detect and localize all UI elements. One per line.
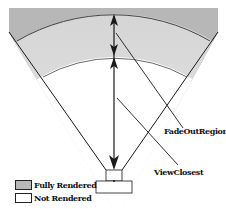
view-frustum-diagram bbox=[0, 0, 226, 209]
legend-label: Not Rendered bbox=[34, 193, 91, 203]
camera-center-dot bbox=[113, 180, 115, 182]
legend-fully-rendered: Fully Rendered bbox=[15, 180, 96, 190]
legend-swatch-white bbox=[15, 193, 32, 203]
camera-body bbox=[96, 181, 132, 193]
legend-not-rendered: Not Rendered bbox=[15, 193, 91, 203]
camera-lens bbox=[106, 170, 122, 181]
legend-label: Fully Rendered bbox=[34, 180, 96, 190]
legend-swatch-gray bbox=[15, 180, 32, 190]
view-closest-label: ViewClosest bbox=[154, 167, 203, 177]
fade-out-region-label: FadeOutRegion bbox=[164, 126, 226, 136]
